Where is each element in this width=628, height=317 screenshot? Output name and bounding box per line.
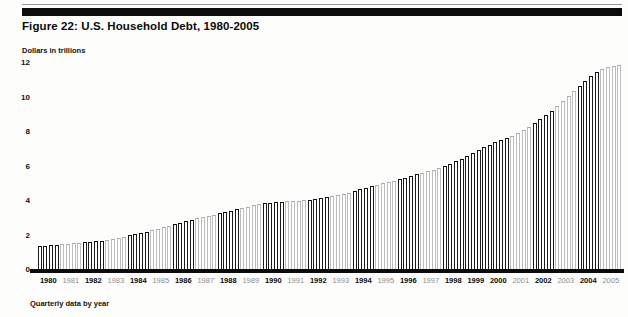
bar <box>364 188 368 269</box>
x-axis-tick-label: 1984 <box>130 276 147 285</box>
bar <box>555 106 559 269</box>
bar <box>94 241 98 269</box>
bar <box>105 240 109 269</box>
bar <box>49 245 53 269</box>
bar <box>195 218 199 269</box>
bar <box>432 170 436 269</box>
x-axis-ticks: 1980198119821983198419851986198719881989… <box>37 276 622 290</box>
bar <box>246 207 250 269</box>
bar <box>162 227 166 269</box>
bar <box>291 201 295 269</box>
bar <box>606 67 610 269</box>
bar <box>139 233 143 269</box>
bar <box>274 202 278 269</box>
bar <box>375 185 379 269</box>
bar <box>477 150 481 269</box>
bar <box>595 72 599 270</box>
bar <box>77 243 81 269</box>
x-axis-tick-label: 1980 <box>40 276 57 285</box>
x-axis-tick-label: 1986 <box>175 276 192 285</box>
bar <box>426 171 430 269</box>
x-axis-tick-label: 1996 <box>400 276 417 285</box>
bar <box>448 164 452 269</box>
bar <box>550 111 554 269</box>
bar <box>567 96 571 269</box>
y-axis-tick-label: 4 <box>26 196 30 205</box>
bar <box>235 209 239 269</box>
bar <box>527 127 531 269</box>
chart-footnote: Quarterly data by year <box>30 299 109 308</box>
bar <box>268 203 272 269</box>
top-black-banner <box>22 8 622 16</box>
bar <box>201 217 205 269</box>
x-axis-tick-label: 1981 <box>62 276 79 285</box>
bar <box>72 243 76 269</box>
bar <box>353 191 357 269</box>
bar <box>370 186 374 269</box>
x-axis-baseline <box>30 269 624 273</box>
bar <box>223 212 227 269</box>
x-axis-tick-label: 1989 <box>242 276 259 285</box>
bar <box>488 145 492 269</box>
y-axis-tick-label: 6 <box>26 161 30 170</box>
bar <box>387 182 391 269</box>
figure-container: Figure 22: U.S. Household Debt, 1980-200… <box>0 0 628 317</box>
bar <box>583 81 587 269</box>
bar <box>43 246 47 269</box>
x-axis-tick-label: 1983 <box>107 276 124 285</box>
bar <box>38 246 42 269</box>
bar <box>252 205 256 269</box>
bar <box>454 161 458 269</box>
bar <box>212 215 216 270</box>
x-axis-tick-label: 1985 <box>152 276 169 285</box>
y-axis-tick-label: 2 <box>26 230 30 239</box>
y-axis-tick-label: 12 <box>21 58 30 67</box>
y-axis-unit-label: Dollars in trillions <box>22 46 85 55</box>
top-thin-rule <box>22 4 622 5</box>
x-axis-tick-label: 1982 <box>85 276 102 285</box>
bar <box>544 115 548 269</box>
bar <box>145 232 149 269</box>
x-axis-tick-label: 2001 <box>512 276 529 285</box>
x-axis-tick-label: 2005 <box>602 276 619 285</box>
bar <box>505 138 509 269</box>
bar <box>533 123 537 269</box>
bar <box>111 239 115 269</box>
x-axis-tick-label: 1991 <box>287 276 304 285</box>
x-axis-tick-label: 1995 <box>377 276 394 285</box>
bar <box>589 76 593 269</box>
bar <box>88 242 92 269</box>
x-axis-tick-label: 1987 <box>197 276 214 285</box>
x-axis-tick-label: 1997 <box>422 276 439 285</box>
bar <box>578 86 582 269</box>
bar <box>538 119 542 269</box>
bar <box>280 202 284 269</box>
bar <box>342 194 346 269</box>
bar <box>420 173 424 269</box>
bar <box>190 220 194 269</box>
bar <box>308 200 312 269</box>
bar <box>415 174 419 269</box>
bar <box>100 241 104 269</box>
bar <box>218 213 222 269</box>
bar <box>403 178 407 269</box>
bar-series <box>37 62 622 269</box>
bar <box>392 181 396 269</box>
bar <box>60 244 64 269</box>
bar <box>302 200 306 269</box>
x-axis-tick-label: 2002 <box>535 276 552 285</box>
bar <box>600 69 604 269</box>
x-axis-tick-label: 1998 <box>445 276 462 285</box>
bar <box>398 179 402 269</box>
bar <box>128 235 132 269</box>
bar <box>482 147 486 269</box>
x-axis-tick-label: 2000 <box>490 276 507 285</box>
bar <box>358 189 362 269</box>
bar <box>263 203 267 269</box>
x-axis-tick-label: 1990 <box>265 276 282 285</box>
bar <box>612 66 616 269</box>
bar <box>133 234 137 269</box>
bar <box>178 223 182 269</box>
bar <box>437 168 441 269</box>
bar <box>522 130 526 269</box>
